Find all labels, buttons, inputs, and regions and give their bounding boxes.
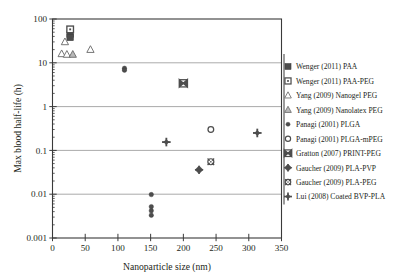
y-tick-label: 0.1 <box>36 146 47 156</box>
series-1 <box>67 26 74 33</box>
legend-item-label: Lui (2008) Coated BVP-PLA <box>296 192 386 201</box>
legend-item-label: Yang (2009) Nanolatex PEG <box>296 106 383 115</box>
legend-item-7[interactable]: Gaucher (2009) PLA-PVP <box>284 164 376 173</box>
x-tick-label: 150 <box>144 243 158 253</box>
marker-open-square-dot <box>285 78 291 84</box>
x-tick-label: 250 <box>209 243 223 253</box>
marker-gear-circle <box>285 179 291 185</box>
marker-small-filled-circle <box>149 213 154 218</box>
legend-item-9[interactable]: Lui (2008) Coated BVP-PLA <box>284 192 386 201</box>
legend-item-label: Panagi (2001) PLGA-mPEG <box>296 135 383 144</box>
marker-open-circle <box>285 136 290 141</box>
x-tick-label: 350 <box>275 243 289 253</box>
legend-item-2[interactable]: Yang (2009) Nanogel PEG <box>285 91 378 100</box>
marker-open-square-dot <box>67 26 74 33</box>
legend-item-8[interactable]: Gaucher (2009) PLA-PEG <box>285 178 377 187</box>
series-8 <box>208 158 215 165</box>
marker-filled-square <box>67 34 74 41</box>
y-tick-label: 100 <box>33 14 47 24</box>
marker-small-filled-circle <box>149 204 154 209</box>
marker-small-filled-circle <box>149 192 154 197</box>
marker-gear-circle <box>208 158 215 165</box>
x-tick-label: 50 <box>81 243 91 253</box>
y-tick-label: 1 <box>42 102 47 112</box>
x-tick-label: 0 <box>50 243 55 253</box>
y-tick-label: 0.001 <box>27 233 47 243</box>
x-tick-label: 200 <box>177 243 191 253</box>
marker-small-filled-circle <box>122 68 127 73</box>
legend-item-6[interactable]: Gratton (2007) PRINT-PEG <box>284 149 381 158</box>
legend-item-5[interactable]: Panagi (2001) PLGA-mPEG <box>285 135 383 144</box>
legend-item-1[interactable]: Wenger (2011) PAA-PEG <box>285 77 375 86</box>
series-5 <box>208 127 214 133</box>
legend-item-label: Gaucher (2009) PLA-PVP <box>296 164 376 173</box>
y-tick-label: 10 <box>38 58 48 68</box>
x-tick-label: 100 <box>111 243 125 253</box>
x-axis-title: Nanoparticle size (nm) <box>123 261 211 273</box>
marker-small-filled-circle <box>149 208 154 213</box>
marker-filled-square <box>285 63 291 69</box>
legend-item-4[interactable]: Panagi (2001) PLGA <box>286 120 361 129</box>
legend-item-label: Panagi (2001) PLGA <box>296 120 361 129</box>
x-tick-label: 300 <box>242 243 256 253</box>
legend-item-label: Yang (2009) Nanogel PEG <box>296 91 378 100</box>
chart-figure: 0.0010.010.1110100 050100150200250300350… <box>0 0 400 278</box>
marker-small-filled-circle <box>286 122 290 126</box>
legend-item-label: Wenger (2011) PAA <box>296 62 358 71</box>
marker-open-circle <box>208 127 214 133</box>
legend-item-label: Gaucher (2009) PLA-PEG <box>296 178 377 187</box>
y-tick-label: 0.01 <box>31 189 47 199</box>
legend-item-0[interactable]: Wenger (2011) PAA <box>285 62 358 71</box>
scatter-plot-svg: 0.0010.010.1110100 050100150200250300350… <box>0 0 400 278</box>
legend-item-3[interactable]: Yang (2009) Nanolatex PEG <box>285 106 384 115</box>
legend-item-label: Gratton (2007) PRINT-PEG <box>296 149 381 158</box>
legend-item-label: Wenger (2011) PAA-PEG <box>296 77 375 86</box>
y-axis-title: Max blood half-life (h) <box>12 84 24 173</box>
